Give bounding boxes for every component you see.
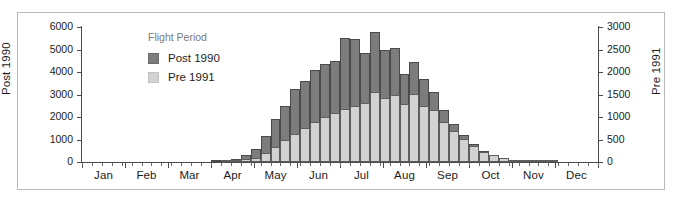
x-axis-week-tick [459,163,460,166]
right-axis-tick-label: 1500 [607,89,630,100]
x-axis-month-tick [555,163,556,168]
right-axis-tick-label: 500 [607,134,625,145]
bar-pre-1991 [439,122,449,163]
right-axis-tick [599,95,603,96]
x-axis-week-tick [161,163,162,166]
x-axis-week-tick [201,163,202,166]
right-axis-tick-label: 2500 [607,44,630,55]
x-axis-week-tick [449,163,450,166]
bar-pre-1991 [449,131,459,163]
x-axis-label-jun: Jun [297,169,340,181]
x-axis-month-tick [297,163,298,168]
bar-group-item [350,27,360,162]
x-axis-label-apr: Apr [211,169,254,181]
bar-pre-1991 [350,106,360,162]
x-axis-week-tick [290,163,291,166]
right-axis-title: Pre 1991 [650,48,662,95]
bar-group-item [548,27,558,162]
x-axis-week-tick [151,163,152,166]
bar-group-item [538,27,548,162]
legend-title: Flight Period [148,31,220,43]
legend-item-pre-1991: Pre 1991 [148,71,220,83]
bar-pre-1991 [489,155,499,162]
bar-group-item [429,27,439,162]
bar-group-item [132,27,142,162]
x-axis-week-tick [92,163,93,166]
bar-group-item [310,27,320,162]
x-axis-week-tick [479,163,480,166]
chart-legend: Flight Period Post 1990 Pre 1991 [148,31,220,90]
right-axis-tick [599,50,603,51]
bar-pre-1991 [370,92,380,162]
right-axis-tick-label: 2000 [607,66,630,77]
x-axis-week-tick [558,163,559,166]
x-axis-week-tick [102,163,103,166]
x-axis-week-tick [529,163,530,166]
x-axis-week-tick [360,163,361,166]
x-axis-week-tick [598,163,599,166]
left-axis-tick [77,117,81,118]
bar-pre-1991 [261,153,271,162]
x-axis-week-tick [132,163,133,166]
bar-group-item [439,27,449,162]
x-axis-week-tick [489,163,490,166]
x-axis-week-tick [271,163,272,166]
chart-figure: Post 1990 Pre 1991 010002000300040005000… [0,0,683,203]
x-axis-month-tick [168,163,169,168]
x-axis-month-tick [512,163,513,168]
x-axis-week-tick [171,163,172,166]
left-axis-tick [77,162,81,163]
bar-group-item [568,27,578,162]
bar-pre-1991 [340,109,350,162]
bar-group-item [320,27,330,162]
bar-group-item [499,27,509,162]
bar-pre-1991 [429,110,439,162]
x-axis-week-tick [261,163,262,166]
x-axis-week-tick [350,163,351,166]
bar-group-item [449,27,459,162]
x-axis-week-tick [578,163,579,166]
x-axis-week-tick [548,163,549,166]
bar-pre-1991 [320,117,330,162]
x-axis-week-tick [112,163,113,166]
bar-group-item [469,27,479,162]
left-axis-tick [77,95,81,96]
bar-group-item [340,27,350,162]
x-axis-week-tick [429,163,430,166]
bar-group-item [92,27,102,162]
bar-pre-1991 [479,152,489,162]
x-axis-week-tick [568,163,569,166]
left-axis-tick [77,72,81,73]
x-axis-label-jan: Jan [82,169,125,181]
bar-group-item [231,27,241,162]
bar-group-item [370,27,380,162]
right-axis-tick-label: 3000 [607,21,630,32]
bar-group-item [221,27,231,162]
bar-group-item [241,27,251,162]
bar-pre-1991 [459,139,469,162]
x-axis-label-may: May [254,169,297,181]
bar-group-item [419,27,429,162]
x-axis-month-tick [125,163,126,168]
bar-pre-1991 [280,140,290,162]
bar-group-item [489,27,499,162]
bar-pre-1991 [271,147,281,162]
legend-label-post-1990: Post 1990 [168,52,220,64]
x-axis-label-nov: Nov [512,169,555,181]
x-axis-week-tick [390,163,391,166]
bar-group-item [330,27,340,162]
bar-group-item [300,27,310,162]
bar-group-item [290,27,300,162]
bar-group-item [519,27,529,162]
bar-group-item [261,27,271,162]
x-axis-week-tick [320,163,321,166]
bar-group-item [271,27,281,162]
bar-group-item [280,27,290,162]
bar-pre-1991 [310,122,320,162]
x-axis-week-tick [538,163,539,166]
right-axis-tick-label: 1000 [607,111,630,122]
x-axis-week-tick [419,163,420,166]
bar-pre-1991 [380,98,390,162]
x-axis-month-tick [254,163,255,168]
x-axis-week-tick [519,163,520,166]
